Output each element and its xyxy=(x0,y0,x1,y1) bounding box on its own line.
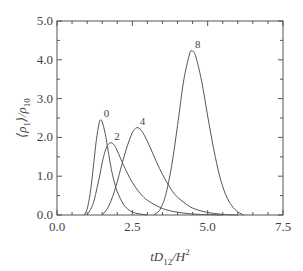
curve-label-8: 8 xyxy=(195,38,201,50)
x-tick-label: 7.5 xyxy=(275,219,291,234)
curve-label-0: 0 xyxy=(104,107,110,119)
chart: 0.02.55.07.5 0.01.02.03.04.05.0 0248 tD1… xyxy=(0,0,303,271)
y-tick-label: 5.0 xyxy=(37,13,53,28)
curve-label-2: 2 xyxy=(114,130,120,142)
y-tick-label: 1.0 xyxy=(37,168,53,183)
y-tick-label: 2.0 xyxy=(37,129,53,144)
y-tick-label: 0.0 xyxy=(37,207,53,222)
curve-2 xyxy=(87,143,223,215)
y-tick-label: 3.0 xyxy=(37,91,53,106)
x-axis-ticks: 0.02.55.07.5 xyxy=(49,21,291,234)
y-axis-ticks: 0.01.02.03.04.05.0 xyxy=(37,13,283,222)
x-axis-title: tD12/H2 xyxy=(150,247,190,267)
x-tick-label: 5.0 xyxy=(200,219,216,234)
y-axis-title: ⟨ρ1⟩/ρ10 xyxy=(14,98,32,138)
x-tick-label: 2.5 xyxy=(124,219,140,234)
curve-label-4: 4 xyxy=(140,115,146,127)
y-tick-label: 4.0 xyxy=(37,52,53,67)
curves xyxy=(84,50,244,215)
curve-8 xyxy=(153,50,243,215)
curve-labels: 0248 xyxy=(104,38,201,142)
